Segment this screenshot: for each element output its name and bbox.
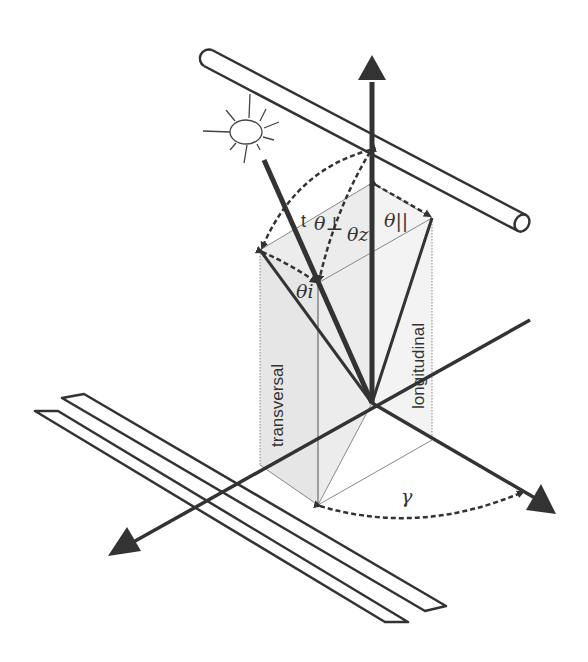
sun-icon bbox=[203, 94, 279, 163]
label-theta-i: θi bbox=[296, 280, 314, 302]
rail-left bbox=[35, 411, 408, 622]
label-theta-perp: θ⊥ bbox=[314, 212, 343, 234]
arrowhead-up-icon bbox=[358, 55, 386, 80]
label-theta-z: θz bbox=[347, 223, 369, 245]
label-gamma: γ bbox=[401, 485, 413, 507]
gamma-arc bbox=[320, 492, 523, 518]
label-transversal: transversal bbox=[268, 364, 287, 447]
rail-right bbox=[62, 394, 446, 611]
arrowhead-south-icon bbox=[526, 484, 556, 514]
sun-angle-diagram: t θ⊥ θz θ|| θi γ transversal longitudina… bbox=[0, 0, 588, 662]
label-theta-par: θ|| bbox=[384, 209, 408, 232]
rails bbox=[35, 394, 446, 622]
label-longitudinal: longitudinal bbox=[409, 323, 428, 409]
label-theta-perp-prefix: t bbox=[301, 211, 306, 231]
